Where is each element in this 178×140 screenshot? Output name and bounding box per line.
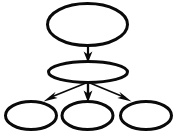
graph-node-root[interactable]	[48, 4, 128, 46]
node-ellipse	[62, 102, 113, 130]
node-ellipse	[49, 62, 128, 83]
diagram-svg	[0, 0, 178, 140]
graph-node-leaf-right[interactable]	[121, 102, 172, 130]
node-ellipse	[6, 102, 57, 130]
graph-node-leaf-center[interactable]	[62, 102, 113, 130]
diagram-canvas	[0, 0, 178, 140]
node-ellipse	[121, 102, 172, 130]
node-ellipse	[48, 4, 128, 46]
graph-node-leaf-left[interactable]	[6, 102, 57, 130]
graph-node-middle[interactable]	[49, 62, 128, 83]
